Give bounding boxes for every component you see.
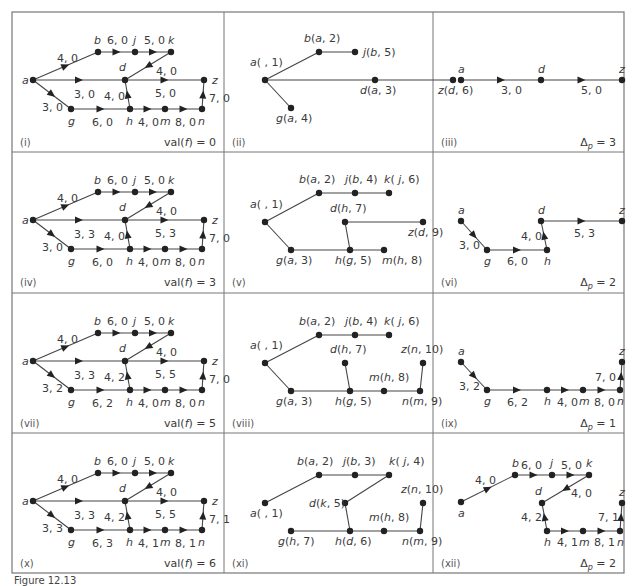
edge-label-bj: 6, 0 bbox=[107, 34, 128, 47]
edge-label-ad: 3, 3 bbox=[74, 509, 95, 522]
vertex-dot bbox=[381, 388, 387, 394]
vertex-label-k: k bbox=[168, 34, 175, 47]
vertex-label-m: m bbox=[579, 536, 590, 549]
vertex-label-j: j(b, 4) bbox=[343, 315, 378, 328]
arrow-head-icon bbox=[97, 106, 105, 113]
vertex-label-k: k bbox=[168, 455, 175, 468]
panel-number: (x) bbox=[20, 558, 34, 569]
vertex-label-z: z bbox=[211, 214, 218, 227]
panel-path-6: 3, 06, 04, 05, 3aghdz(vi)Δp = 2 bbox=[441, 204, 625, 291]
vertex-label-g: g bbox=[68, 115, 75, 128]
vertex-label-z: z bbox=[211, 495, 218, 508]
edge-label-kd: 4, 0 bbox=[156, 65, 177, 78]
vertex-dot bbox=[288, 528, 294, 534]
vertex-dot bbox=[95, 330, 101, 336]
vertex-label-n: n(m, 9) bbox=[402, 535, 442, 548]
vertex-dot bbox=[162, 246, 168, 252]
vertex-label-z: z(n, 10) bbox=[400, 483, 443, 496]
vertex-dot bbox=[199, 106, 205, 112]
edge-line bbox=[265, 80, 291, 108]
vertex-label-z: z bbox=[618, 345, 625, 358]
vertex-dot bbox=[544, 247, 550, 253]
vertex-dot bbox=[347, 247, 353, 253]
vertex-dot bbox=[549, 472, 555, 478]
panel-number: (iv) bbox=[20, 277, 37, 288]
arrow-head-icon bbox=[180, 527, 188, 534]
vertex-label-a: a bbox=[458, 345, 465, 358]
vertex-label-h: h(d, 6) bbox=[335, 535, 372, 548]
vertex-dot bbox=[122, 77, 128, 83]
edge-label-ag: 3, 0 bbox=[459, 239, 480, 252]
vertex-label-j: j bbox=[131, 455, 137, 468]
edge-label-ab: 4, 0 bbox=[57, 192, 78, 205]
vertex-label-g: g bbox=[68, 536, 75, 549]
vertex-dot bbox=[168, 189, 174, 195]
panel-number: (i) bbox=[20, 137, 31, 148]
edge-label-hd: 4, 0 bbox=[104, 90, 125, 103]
vertex-dot bbox=[122, 358, 128, 364]
arrow-head-icon bbox=[497, 77, 505, 84]
vertex-dot bbox=[619, 359, 625, 365]
edge-label-gh: 6, 0 bbox=[92, 256, 113, 269]
vertex-dot bbox=[342, 360, 348, 366]
edge-label-kd: 4, 0 bbox=[156, 346, 177, 359]
panel-number: (iii) bbox=[441, 137, 457, 148]
vertex-label-h: h bbox=[126, 115, 133, 128]
vertex-dot bbox=[68, 106, 74, 112]
vertex-label-j: j bbox=[548, 457, 554, 470]
vertex-dot bbox=[544, 387, 550, 393]
vertex-dot bbox=[168, 330, 174, 336]
arrow-head-icon bbox=[561, 387, 569, 394]
vertex-label-d: d bbox=[535, 485, 543, 498]
arrow-head-icon bbox=[561, 528, 569, 535]
vertex-dot bbox=[162, 387, 168, 393]
vertex-dot bbox=[619, 500, 625, 506]
arrow-head-icon bbox=[97, 246, 105, 253]
vertex-dot bbox=[201, 217, 207, 223]
vertex-dot bbox=[132, 330, 138, 336]
edge-label-ab: 4, 0 bbox=[57, 333, 78, 346]
vertex-label-k: k( j, 4) bbox=[389, 455, 425, 468]
edge-label-dz: 5, 5 bbox=[155, 368, 176, 381]
vertex-label-a: a bbox=[22, 355, 29, 368]
vertex-label-b: b(a, 2) bbox=[304, 32, 340, 45]
vertex-dot bbox=[420, 500, 426, 506]
vertex-dot bbox=[316, 332, 322, 338]
vertex-label-b: b bbox=[94, 455, 101, 468]
edge-label-kd: 4, 0 bbox=[156, 205, 177, 218]
vertex-dot bbox=[30, 498, 36, 504]
vertex-label-h: h bbox=[544, 255, 551, 268]
vertex-dot bbox=[544, 528, 550, 534]
edge-label-mn: 8, 0 bbox=[175, 397, 196, 410]
vertex-label-a: a( , 1) bbox=[250, 507, 283, 520]
vertex-label-m: m bbox=[160, 396, 171, 409]
vertex-label-j: j(b, 3) bbox=[341, 455, 376, 468]
vertex-label-z: z(n, 10) bbox=[400, 343, 443, 356]
vertex-label-d: d(h, 7) bbox=[330, 343, 367, 356]
vertex-dot bbox=[347, 388, 353, 394]
arrow-head-icon bbox=[617, 372, 624, 380]
vertex-label-d: d(a, 3) bbox=[360, 84, 396, 97]
vertex-dot bbox=[201, 498, 207, 504]
vertex-dot bbox=[352, 472, 358, 478]
vertex-label-z: z bbox=[618, 63, 625, 76]
arrow-head-icon bbox=[149, 49, 157, 56]
edge-label-mn: 8, 1 bbox=[594, 536, 615, 549]
arrow-head-icon bbox=[541, 232, 548, 241]
edge-label-jk: 5, 0 bbox=[144, 455, 165, 468]
vertex-dot bbox=[288, 105, 294, 111]
vertex-label-n: n bbox=[617, 395, 624, 408]
edge-label-dz: 5, 0 bbox=[581, 84, 602, 97]
vertex-label-a: a( , 1) bbox=[250, 56, 283, 69]
arrow-head-icon bbox=[47, 510, 55, 518]
vertex-label-m: m bbox=[160, 255, 171, 268]
flow-value: val(f) = 3 bbox=[164, 276, 216, 289]
edge-line bbox=[345, 475, 389, 503]
vertex-label-a: a bbox=[458, 63, 465, 76]
vertex-label-d: d bbox=[119, 61, 127, 74]
vertex-label-d: d bbox=[119, 201, 127, 214]
edge-label-dz: 5, 3 bbox=[155, 227, 176, 240]
vertex-label-z: z bbox=[618, 486, 625, 499]
vertex-label-n: n bbox=[198, 536, 205, 549]
arrow-head-icon bbox=[145, 61, 154, 68]
